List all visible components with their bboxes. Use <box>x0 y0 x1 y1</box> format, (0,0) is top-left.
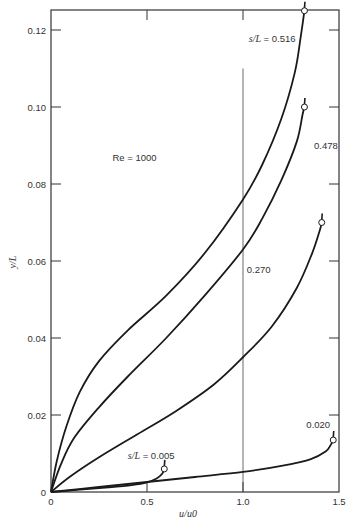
boundary-layer-velocity-profile-chart: 00.020.040.060.080.100.1200.51.01.5 Re =… <box>0 0 359 532</box>
end-marker-circle <box>301 8 307 14</box>
x-tick-label: 1.0 <box>236 496 249 507</box>
plot-frame <box>51 10 339 492</box>
y-tick-label: 0 <box>41 487 46 498</box>
end-marker-circle <box>319 220 325 226</box>
end-marker-circle <box>161 466 167 472</box>
annotation-s005: s/L = 0.005 <box>128 450 175 461</box>
y-tick-label: 0.04 <box>28 333 47 344</box>
y-tick-label: 0.12 <box>28 25 47 36</box>
y-tick-label: 0.10 <box>28 102 47 113</box>
annotation-s516: s/L = 0.516 <box>249 33 296 44</box>
annotation-s270: 0.270 <box>247 264 271 275</box>
curve-0270 <box>51 223 322 493</box>
axis-ticks: 00.020.040.060.080.100.1200.51.01.5 <box>28 10 346 507</box>
y-axis-title: y/L <box>7 255 18 269</box>
curve-0478 <box>51 107 304 492</box>
annotation-s478: 0.478 <box>314 140 338 151</box>
y-tick-label: 0.02 <box>28 410 47 421</box>
end-marker-circle <box>330 437 336 443</box>
y-tick-label: 0.06 <box>28 256 47 267</box>
y-tick-label: 0.08 <box>28 179 47 190</box>
end-marker-circle <box>301 104 307 110</box>
annotation-re_label: Re = 1000 <box>112 152 156 163</box>
x-tick-label: 0 <box>48 496 53 507</box>
velocity-profile-curves <box>51 2 336 492</box>
annotations: Re = 1000s/L = 0.5160.4780.2700.020s/L =… <box>112 33 337 462</box>
plot-border <box>51 10 339 492</box>
curve-0020 <box>51 440 333 492</box>
x-tick-label: 1.5 <box>332 496 345 507</box>
annotation-s020: 0.020 <box>306 419 330 430</box>
x-tick-label: 0.5 <box>140 496 153 507</box>
x-axis-title: u/u0 <box>179 508 197 519</box>
